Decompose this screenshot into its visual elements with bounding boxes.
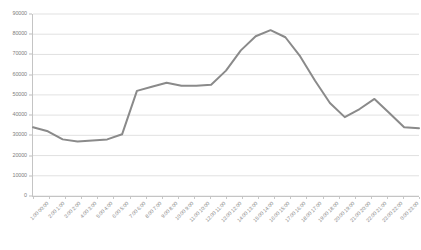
- x-axis-tick-mark: [258, 197, 259, 199]
- y-axis-tick-label: 0: [24, 193, 27, 198]
- x-axis-tick-label: 12:00 13:00: [239, 201, 243, 205]
- x-axis-tick-label: 8:00 9:00: [175, 201, 179, 205]
- x-axis-tick-mark: [81, 197, 82, 199]
- data-series-line: [33, 14, 419, 196]
- x-axis-tick-label: 6:00 7:00: [143, 201, 147, 205]
- plot-area: [33, 14, 419, 196]
- x-axis-tick-mark: [306, 197, 307, 199]
- x-axis-tick-mark: [49, 197, 50, 199]
- x-axis-tick-mark: [65, 197, 66, 199]
- y-axis-tick-label: 40000: [13, 112, 28, 117]
- x-axis-tick-mark: [226, 197, 227, 199]
- line-chart: 0100002000030000400005000060000700008000…: [0, 0, 421, 250]
- x-axis-tick-label: 21:00 22:00: [384, 201, 388, 205]
- x-axis-tick-mark: [97, 197, 98, 199]
- chart-title: [0, 0, 421, 4]
- x-axis-tick-label: 23:00 0:00: [416, 201, 420, 205]
- x-axis-tick-label: 4:00 5:00: [110, 201, 114, 205]
- x-axis-tick-mark: [113, 197, 114, 199]
- x-axis-tick-mark: [419, 197, 420, 199]
- y-axis-tick-label: 50000: [13, 92, 28, 97]
- x-axis-tick-mark: [339, 197, 340, 199]
- y-axis-tick-label: 80000: [13, 32, 28, 37]
- x-axis-tick-mark: [274, 197, 275, 199]
- x-axis-tick-label: 3:00 4:00: [94, 201, 98, 205]
- x-axis-tick-label: 18:00 19:00: [336, 201, 340, 205]
- y-axis-tick-label: 30000: [13, 133, 28, 138]
- x-axis-tick-mark: [371, 197, 372, 199]
- x-axis-tick-labels: 00:00 1:001:00 2:002:00 3:003:00 4:004:0…: [33, 197, 419, 250]
- x-axis-tick-label: 20:00 21:00: [368, 201, 372, 205]
- x-axis-tick-label: 17:00 18:00: [319, 201, 323, 205]
- x-axis-tick-label: 14:00 15:00: [271, 201, 275, 205]
- x-axis-tick-mark: [162, 197, 163, 199]
- x-axis-tick-label: 1:00 2:00: [62, 201, 66, 205]
- x-axis-tick-label: 10:00 11:00: [207, 201, 211, 205]
- x-axis-tick-label: 16:00 17:00: [303, 201, 307, 205]
- x-axis-tick-mark: [210, 197, 211, 199]
- x-axis-tick-mark: [194, 197, 195, 199]
- x-axis-tick-label: 7:00 8:00: [159, 201, 163, 205]
- x-axis-tick-mark: [323, 197, 324, 199]
- x-axis-tick-label: 9:00 10:00: [191, 201, 195, 205]
- x-axis-tick-label: 22:00 23:00: [400, 201, 404, 205]
- series-line-volume: [33, 30, 419, 141]
- x-axis-tick-mark: [178, 197, 179, 199]
- y-axis-tick-label: 60000: [13, 72, 28, 77]
- x-axis-tick-label: 15:00 16:00: [287, 201, 291, 205]
- x-axis-tick-label: 5:00 6:00: [126, 201, 130, 205]
- x-axis-tick-mark: [387, 197, 388, 199]
- x-axis-tick-label: 11:00 12:00: [223, 201, 227, 205]
- x-axis-tick-label: 2:00 3:00: [78, 201, 82, 205]
- x-axis-tick-mark: [355, 197, 356, 199]
- x-axis-tick-mark: [403, 197, 404, 199]
- x-axis-tick-label: 13:00 14:00: [255, 201, 259, 205]
- x-axis-tick-mark: [146, 197, 147, 199]
- x-axis-tick-label: 00:00 1:00: [46, 201, 50, 205]
- x-axis-tick-mark: [33, 197, 34, 199]
- y-axis-tick-labels: 0100002000030000400005000060000700008000…: [0, 0, 31, 250]
- y-axis-tick-label: 20000: [13, 153, 28, 158]
- x-axis-tick-mark: [130, 197, 131, 199]
- x-axis-tick-label: 19:00 20:00: [352, 201, 356, 205]
- x-axis-tick-mark: [290, 197, 291, 199]
- x-axis-tick-mark: [242, 197, 243, 199]
- y-axis-tick-label: 90000: [13, 11, 28, 16]
- y-axis-tick-label: 70000: [13, 52, 28, 57]
- y-axis-tick-label: 10000: [13, 173, 28, 178]
